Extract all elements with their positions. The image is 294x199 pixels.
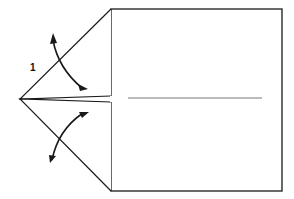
step-number-label: 1 xyxy=(30,62,36,73)
origami-diagram xyxy=(0,0,294,199)
upper-flap xyxy=(20,9,111,99)
lower-flap xyxy=(20,99,111,191)
square-paper xyxy=(111,9,282,191)
